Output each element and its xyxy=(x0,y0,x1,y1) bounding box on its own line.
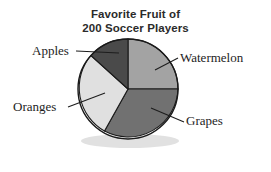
pie-chart-graphic xyxy=(0,0,271,172)
pie-chart-screenshot: Favorite Fruit of 200 Soccer Players App… xyxy=(0,0,271,172)
pie-label-grapes: Grapes xyxy=(186,114,223,128)
pie-label-apples: Apples xyxy=(32,44,69,58)
pie-label-watermelon: Watermelon xyxy=(180,51,243,65)
pie-chart-svg xyxy=(0,0,271,172)
pie-label-oranges: Oranges xyxy=(13,100,56,114)
